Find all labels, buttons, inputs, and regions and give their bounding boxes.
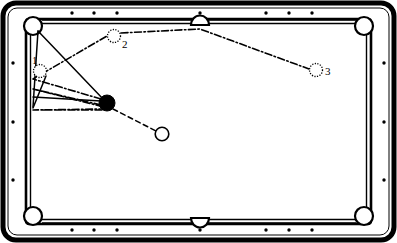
object-ball-2 bbox=[108, 30, 121, 43]
bottom-left-pocket bbox=[24, 207, 42, 225]
cue-ball bbox=[99, 95, 115, 111]
object-ball-3 bbox=[310, 64, 323, 77]
object-ball-2-label: 2 bbox=[122, 38, 128, 50]
object-ball-1 bbox=[34, 65, 47, 78]
diamond-top-4 bbox=[198, 11, 201, 14]
diamond-right-3 bbox=[382, 178, 385, 181]
diamond-right-1 bbox=[382, 61, 385, 64]
diamond-left-2 bbox=[11, 120, 14, 123]
diamond-top-3 bbox=[115, 11, 118, 14]
diamond-bottom-2 bbox=[92, 228, 95, 231]
diamond-left-1 bbox=[11, 61, 14, 64]
top-center-pocket bbox=[191, 16, 209, 26]
diamond-left-3 bbox=[11, 178, 14, 181]
top-right-pocket bbox=[355, 17, 373, 35]
bottom-center-pocket bbox=[191, 218, 209, 228]
diamond-top-1 bbox=[70, 11, 73, 14]
diamond-right-2 bbox=[382, 120, 385, 123]
diamond-bottom-6 bbox=[287, 228, 290, 231]
bottom-right-pocket bbox=[355, 207, 373, 225]
diamond-top-2 bbox=[92, 11, 95, 14]
diamond-top-5 bbox=[264, 11, 267, 14]
diamond-bottom-7 bbox=[310, 228, 313, 231]
cushion-band-inner bbox=[31, 24, 367, 220]
object-ball-1-label: 1 bbox=[32, 54, 38, 66]
diamond-bottom-4 bbox=[198, 228, 201, 231]
diamond-top-6 bbox=[287, 11, 290, 14]
diamond-bottom-5 bbox=[264, 228, 267, 231]
diamond-top-7 bbox=[310, 11, 313, 14]
pool-table-diagram: 1 2 3 bbox=[0, 0, 397, 243]
target-ball bbox=[155, 127, 169, 141]
object-ball-3-label: 3 bbox=[325, 65, 331, 77]
diamond-bottom-1 bbox=[70, 228, 73, 231]
diamond-bottom-3 bbox=[115, 228, 118, 231]
table-svg: 1 2 3 bbox=[0, 0, 397, 243]
